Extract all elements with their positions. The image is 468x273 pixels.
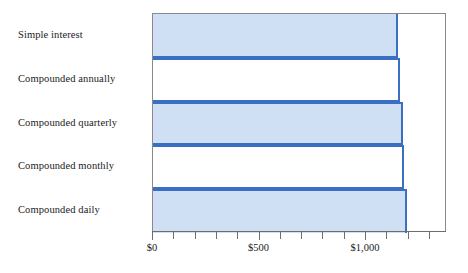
x-tick: [216, 232, 217, 239]
x-tick-label: $1,000: [351, 243, 380, 254]
category-label-text: Compounded annually: [0, 74, 115, 85]
x-tick: [301, 232, 302, 239]
bar-row: [153, 14, 447, 58]
x-tick: [173, 232, 174, 239]
x-tick-label: $0: [147, 243, 158, 254]
bar-4: [153, 189, 407, 233]
x-tick: [259, 232, 260, 240]
category-label-text: Compounded quarterly: [0, 118, 117, 129]
category-label-2: Compounded quarterly: [0, 118, 136, 129]
x-tick: [365, 232, 366, 240]
bar-row: [153, 58, 447, 102]
bar-row: [153, 102, 447, 146]
bar-chart: Simple interest Compounded annually Comp…: [0, 0, 468, 273]
category-label-text: Compounded monthly: [0, 161, 114, 172]
category-label-3: Compounded monthly: [0, 161, 136, 172]
x-tick: [280, 232, 281, 239]
x-tick: [408, 232, 409, 239]
x-tick: [152, 232, 153, 240]
x-tick: [237, 232, 238, 239]
bar-2: [153, 102, 403, 146]
bars-layer: [153, 14, 445, 231]
category-label-text: Compounded daily: [0, 205, 100, 216]
bar-row: [153, 189, 447, 233]
plot-area: [152, 13, 446, 232]
x-tick: [322, 232, 323, 239]
x-tick: [195, 232, 196, 239]
bar-3: [153, 145, 404, 189]
x-tick: [429, 232, 430, 239]
category-label-0: Simple interest: [0, 30, 136, 41]
x-tick: [344, 232, 345, 239]
x-tick: [386, 232, 387, 239]
category-label-text: Simple interest: [0, 30, 83, 41]
bar-0: [153, 14, 398, 58]
category-label-4: Compounded daily: [0, 205, 136, 216]
bar-row: [153, 145, 447, 189]
x-axis-line: [152, 231, 446, 232]
x-tick-label: $500: [248, 243, 269, 254]
bar-1: [153, 58, 400, 102]
category-label-1: Compounded annually: [0, 74, 136, 85]
category-axis-labels: Simple interest Compounded annually Comp…: [0, 13, 146, 232]
